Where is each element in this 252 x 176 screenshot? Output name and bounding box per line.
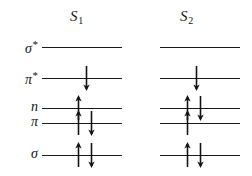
orbital-label-pi-star: π* — [8, 69, 38, 88]
orbital-label-text: n — [31, 99, 38, 114]
electron-s2-pi-up — [183, 110, 192, 136]
orbital-label-text: σ — [31, 146, 38, 161]
energy-level-s2-sigma-star — [160, 47, 240, 48]
energy-level-s2-pi — [160, 123, 240, 124]
electron-s2-sigma-up — [183, 142, 192, 168]
energy-level-s1-sigma-star — [42, 47, 122, 48]
orbital-label-pi: π — [8, 114, 38, 130]
electron-s1-sigma-down — [87, 142, 96, 168]
column-header-s1-subscript: 1 — [78, 15, 83, 26]
electron-s1-pi-star-down — [82, 65, 91, 91]
column-header-s1: S1 — [70, 8, 83, 26]
column-header-s2: S2 — [180, 8, 193, 26]
column-header-s1-text: S — [70, 8, 78, 24]
orbital-label-superscript: * — [33, 38, 39, 50]
orbital-label-sigma-star: σ* — [8, 38, 38, 57]
orbital-label-text: σ — [25, 41, 32, 56]
orbital-label-text: π — [25, 72, 32, 87]
electron-s2-sigma-down — [196, 142, 205, 168]
electron-s1-pi-up — [74, 110, 83, 136]
column-header-s2-text: S — [180, 8, 188, 24]
orbital-label-superscript: * — [33, 69, 39, 81]
orbital-label-n: n — [8, 99, 38, 115]
electron-s2-n-down — [196, 95, 205, 121]
orbital-label-text: π — [31, 114, 38, 129]
electron-s2-pi-star-down — [192, 65, 201, 91]
electron-s1-pi-down — [87, 110, 96, 136]
orbital-label-sigma: σ — [8, 146, 38, 162]
column-header-s2-subscript: 2 — [188, 15, 193, 26]
mo-energy-level-diagram: S1 S2 σ*π*nπσ — [0, 0, 252, 176]
electron-s1-sigma-up — [74, 142, 83, 168]
